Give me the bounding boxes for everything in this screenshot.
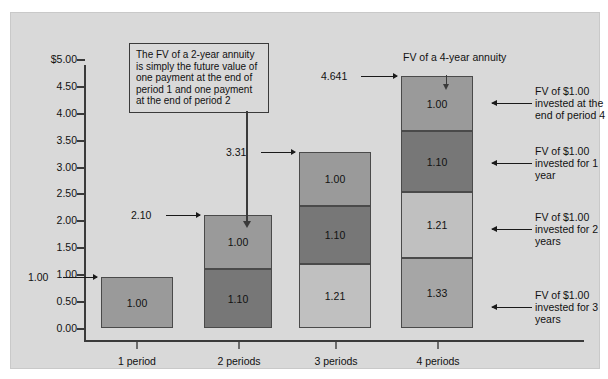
y-tick-4.00 xyxy=(77,113,85,115)
annuity-4year-pointer xyxy=(446,75,447,84)
note-2: FV of $1.00 invested for 1 year xyxy=(535,146,608,181)
y-tick-label-0.00: 0.00 xyxy=(19,323,77,333)
note-arrow-2 xyxy=(492,163,532,164)
bar-3-periods[interactable]: 1.00 1.10 1.21 xyxy=(299,152,371,328)
bar-4-segment-2[interactable]: 1.10 xyxy=(401,131,473,192)
x-tick-3-periods xyxy=(335,342,337,349)
bar-3-segment-1[interactable]: 1.00 xyxy=(299,152,371,206)
x-axis-line xyxy=(84,340,584,342)
bar-4-segment-3[interactable]: 1.21 xyxy=(401,192,473,258)
bar-4-segment-1[interactable]: 1.00 xyxy=(401,76,473,131)
bar-1-total-arrow xyxy=(63,277,97,278)
y-tick-0.50 xyxy=(77,301,85,303)
annuity-4year-label: FV of a 4-year annuity xyxy=(403,52,513,64)
note-4: FV of $1.00 invested for 3 years xyxy=(535,290,608,325)
bar-2-total-arrow xyxy=(166,215,200,216)
y-tick-label-4.00: 4.00 xyxy=(19,108,77,118)
bar-3-total-arrow xyxy=(261,152,295,153)
x-label-1-period: 1 period xyxy=(82,355,192,367)
bar-4-segment-4[interactable]: 1.33 xyxy=(401,258,473,328)
note-arrow-1 xyxy=(492,103,532,104)
bar-4-total-label: 4.641 xyxy=(321,70,347,82)
annuity-callout-box: The FV of a 2-year annuity is simply the… xyxy=(129,43,269,113)
note-3: FV of $1.00 invested for 2 years xyxy=(535,212,608,247)
y-tick-label-3.50: 3.50 xyxy=(19,135,77,145)
y-tick-5.00 xyxy=(77,59,85,61)
y-tick-3.50 xyxy=(77,140,85,142)
bar-3-total-label: 3.31 xyxy=(226,146,246,158)
bar-2-segment-1[interactable]: 1.00 xyxy=(204,215,272,269)
y-tick-0.00 xyxy=(77,328,85,330)
bar-4-periods[interactable]: 1.00 1.10 1.21 1.33 xyxy=(401,76,473,328)
x-label-3-periods: 3 periods xyxy=(281,355,391,367)
annuity-callout-text: The FV of a 2-year annuity is simply the… xyxy=(136,49,257,106)
bar-3-segment-2[interactable]: 1.10 xyxy=(299,206,371,264)
y-tick-3.00 xyxy=(77,167,85,169)
note-arrow-3 xyxy=(492,229,532,230)
bar-4-total-arrow xyxy=(361,76,397,77)
x-tick-1-period xyxy=(136,342,138,349)
x-label-4-periods: 4 periods xyxy=(383,355,493,367)
bar-2-total-label: 2.10 xyxy=(131,209,151,221)
y-tick-label-3.00: 3.00 xyxy=(19,162,77,172)
bar-1-period[interactable]: 1.00 xyxy=(101,277,173,328)
x-label-2-periods: 2 periods xyxy=(184,355,294,367)
bar-2-periods[interactable]: 1.00 1.10 xyxy=(204,215,272,328)
y-tick-2.50 xyxy=(77,193,85,195)
bar-1-total-label: 1.00 xyxy=(28,271,48,283)
y-tick-label-2.50: 2.50 xyxy=(19,188,77,198)
x-tick-4-periods xyxy=(437,342,439,349)
bar-3-segment-3[interactable]: 1.21 xyxy=(299,264,371,328)
bar-1-segment-1[interactable]: 1.00 xyxy=(101,277,173,328)
bar-2-segment-2[interactable]: 1.10 xyxy=(204,269,272,328)
y-tick-label-2.00: 2.00 xyxy=(19,215,77,225)
chart-plate: $5.00 4.50 4.00 3.50 3.00 2.50 2.00 1.50… xyxy=(10,12,600,369)
note-arrow-4 xyxy=(492,307,532,308)
y-tick-1.00 xyxy=(77,274,85,276)
y-tick-2.00 xyxy=(77,220,85,222)
y-tick-label-0.50: 0.50 xyxy=(19,296,77,306)
annuity-callout-pointer xyxy=(246,111,248,221)
y-tick-label-1.50: 1.50 xyxy=(19,242,77,252)
y-tick-4.50 xyxy=(77,86,85,88)
note-1: FV of $1.00 invested at the end of perio… xyxy=(535,86,608,121)
x-tick-2-periods xyxy=(238,342,240,349)
y-tick-label-4.50: 4.50 xyxy=(19,81,77,91)
y-tick-1.50 xyxy=(77,247,85,249)
y-tick-label-5.00: $5.00 xyxy=(19,54,77,64)
